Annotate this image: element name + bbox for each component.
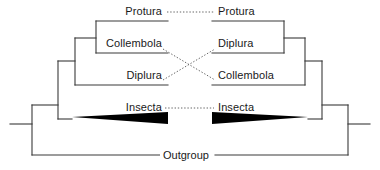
tanglegram-diagram [0,0,380,170]
taxon-connectors [163,12,215,108]
left-taxon-label-protura: Protura [66,6,162,17]
right-taxon-label-insecta: Insecta [218,102,254,113]
right-taxon-label-diplura: Diplura [218,38,254,49]
left-taxon-label-collembola: Collembola [66,38,162,49]
right-taxon-label-protura: Protura [218,6,255,17]
right-insecta-wedge [212,112,308,124]
left-insecta-wedge [72,112,168,124]
figure-canvas: Protura Collembola Diplura Insecta Protu… [0,0,380,170]
left-taxon-label-insecta: Insecta [66,102,162,113]
left-taxon-label-diplura: Diplura [66,70,162,81]
right-taxon-label-collembola: Collembola [218,70,274,81]
outgroup-label: Outgroup [160,150,212,161]
